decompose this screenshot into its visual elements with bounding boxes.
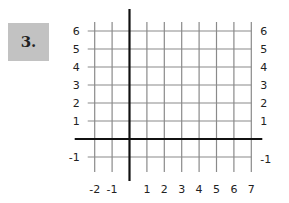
y-tick-label-right: 3 xyxy=(260,79,267,92)
y-tick-label-left: 5 xyxy=(73,43,80,56)
x-tick-label: 7 xyxy=(248,183,255,196)
x-tick-label: 4 xyxy=(196,183,203,196)
y-tick-label-right: 2 xyxy=(260,97,267,110)
y-tick-label-right: 1 xyxy=(260,115,267,128)
y-tick-label-left: -1 xyxy=(69,151,80,164)
y-tick-label-right: 5 xyxy=(260,43,267,56)
y-tick-label-right: 6 xyxy=(260,25,267,38)
y-tick-label-left: 1 xyxy=(73,115,80,128)
y-tick-label-left: 4 xyxy=(73,61,80,74)
x-tick-label: 3 xyxy=(178,183,185,196)
x-tick-label: 6 xyxy=(230,183,237,196)
y-tick-label-left: 3 xyxy=(73,79,80,92)
x-tick-label: -2 xyxy=(89,183,100,196)
y-tick-label-left: 2 xyxy=(73,97,80,110)
x-tick-label: 2 xyxy=(161,183,168,196)
y-tick-label-right: -1 xyxy=(260,153,271,166)
x-tick-label: 1 xyxy=(143,183,150,196)
x-tick-label: -1 xyxy=(107,183,118,196)
x-tick-label: 5 xyxy=(213,183,220,196)
y-tick-label-left: 6 xyxy=(73,25,80,38)
y-tick-label-right: 4 xyxy=(260,61,267,74)
coordinate-grid: -2-11234567654321-1654321-1 xyxy=(0,0,289,203)
